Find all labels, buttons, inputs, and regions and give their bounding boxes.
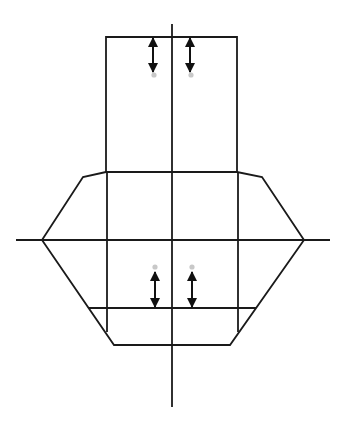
lower-right-arrow-dot [189, 264, 194, 269]
outline-shapes [42, 37, 304, 345]
diagram-canvas [0, 0, 345, 426]
lower-left-arrow-dot [152, 264, 157, 269]
upper-left-arrow-dot [151, 72, 156, 77]
octagon-outline [42, 172, 304, 345]
center-axes [16, 24, 330, 407]
upper-right-arrow-dot [188, 72, 193, 77]
cross-section-diagram [0, 0, 345, 426]
